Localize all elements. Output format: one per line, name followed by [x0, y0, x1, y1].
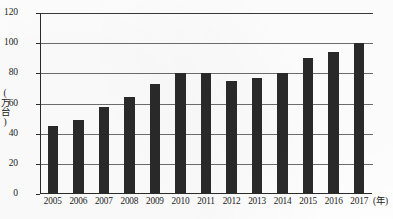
x-tick-label: 2015 [295, 197, 321, 206]
bar-slot [142, 13, 168, 194]
y-tick-label: 20 [0, 159, 18, 169]
x-tick-label: 2011 [193, 197, 219, 206]
bar-slot [66, 13, 92, 194]
y-tick-mark [36, 194, 40, 195]
x-tick-label: 2006 [66, 197, 92, 206]
bar [354, 43, 365, 194]
x-tick-label: 2014 [270, 197, 296, 206]
x-tick-label: 2012 [219, 197, 245, 206]
x-axis-title: (年) [373, 197, 388, 206]
y-tick-label: 100 [0, 38, 18, 48]
bar-slot [244, 13, 270, 194]
x-tick-label: 2010 [168, 197, 194, 206]
bar [328, 52, 339, 194]
bar-slot [168, 13, 194, 194]
bar-slot [295, 13, 321, 194]
x-tick-label: 2016 [321, 197, 347, 206]
y-tick-label: 80 [0, 68, 18, 78]
bar-chart: (万台) 020406080100120 2005200620072008200… [0, 0, 393, 219]
x-tick-label: 2005 [40, 197, 66, 206]
bar-slot [40, 13, 66, 194]
bar-slot [346, 13, 372, 194]
x-tick-label: 2008 [117, 197, 143, 206]
bar [150, 84, 161, 194]
bar [99, 107, 110, 194]
bar-slot [91, 13, 117, 194]
bar-series [40, 13, 372, 194]
bar [175, 73, 186, 194]
bar [73, 120, 84, 194]
y-tick-label: 120 [0, 8, 18, 18]
x-tick-label: 2007 [91, 197, 117, 206]
bar-slot [270, 13, 296, 194]
bar [124, 97, 135, 194]
bar-slot [117, 13, 143, 194]
bar [201, 73, 212, 194]
x-axis: 2005200620072008200920102011201220132014… [40, 197, 372, 211]
bar [303, 58, 314, 194]
y-tick-label: 60 [0, 99, 18, 109]
bar [226, 81, 237, 194]
bar [252, 78, 263, 194]
bar-slot [219, 13, 245, 194]
x-tick-label: 2017 [346, 197, 372, 206]
y-tick-label: 40 [0, 129, 18, 139]
y-tick-label: 0 [0, 189, 18, 199]
x-tick-label: 2009 [142, 197, 168, 206]
x-tick-label: 2013 [244, 197, 270, 206]
bar-slot [193, 13, 219, 194]
bar [48, 126, 59, 194]
bar [277, 73, 288, 194]
bar-slot [321, 13, 347, 194]
